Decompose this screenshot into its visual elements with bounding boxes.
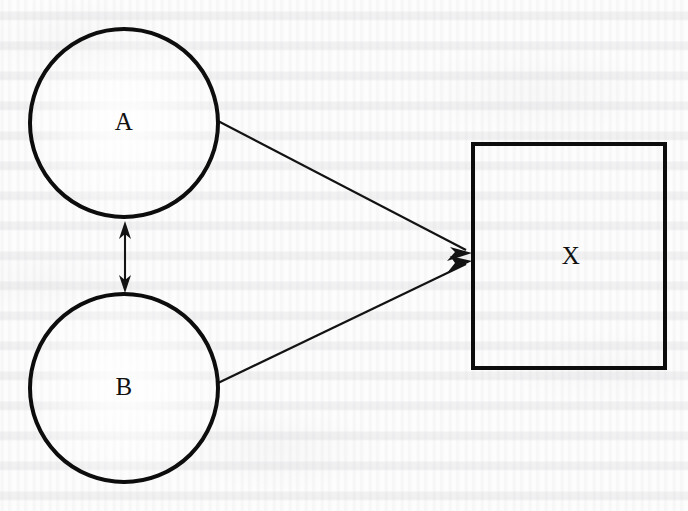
edge-b-to-x-line bbox=[218, 264, 466, 383]
node-b-label: B bbox=[115, 373, 132, 400]
node-b[interactable]: B bbox=[30, 294, 218, 482]
diagram-page: A B X bbox=[0, 0, 688, 511]
node-a-label: A bbox=[115, 108, 134, 135]
edge-a-b-bidirectional bbox=[119, 221, 131, 293]
node-x-label: X bbox=[562, 242, 581, 269]
diagram-canvas: A B X bbox=[0, 0, 688, 511]
node-x[interactable]: X bbox=[473, 144, 665, 368]
edge-a-to-x bbox=[218, 121, 472, 261]
node-a[interactable]: A bbox=[30, 29, 218, 217]
edge-a-to-x-line bbox=[218, 121, 466, 250]
edge-b-to-x bbox=[218, 256, 472, 383]
